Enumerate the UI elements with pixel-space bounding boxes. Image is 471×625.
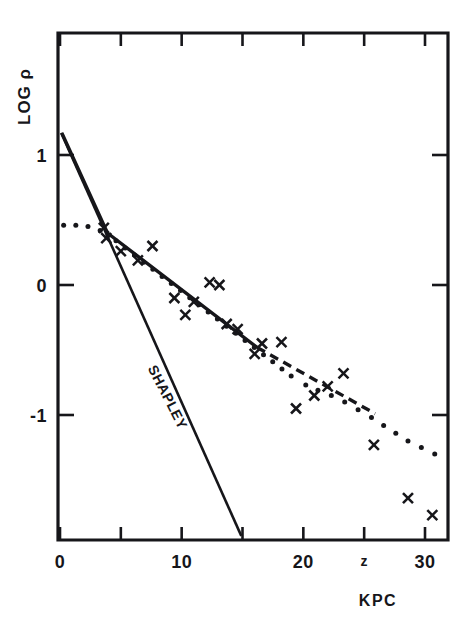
dotted-curve-dot	[206, 309, 211, 314]
data-point-marker	[291, 404, 301, 414]
y-axis-tick-labels: 10-1	[30, 146, 47, 426]
data-point-marker	[309, 391, 319, 401]
dotted-curve-dot	[85, 224, 90, 229]
dotted-curve-dot	[279, 366, 284, 371]
dotted-curve-dot	[369, 415, 374, 420]
dotted-curve-dot	[160, 274, 165, 279]
data-point-marker	[403, 493, 413, 503]
figure-root: 01020z30 10-1 LOG ρ KPC SHAPLEY	[0, 0, 471, 625]
x-tick-label-4: 20	[293, 552, 314, 572]
data-point-marker	[338, 368, 348, 378]
dotted-curve-dot	[329, 393, 334, 398]
fitted-line-solid	[62, 133, 257, 348]
data-point-marker	[369, 440, 379, 450]
dotted-curve-dot	[432, 452, 437, 457]
series-lines-group	[61, 133, 437, 536]
data-point-marker	[180, 310, 190, 320]
x-axis-ticks	[60, 527, 425, 540]
x-axis-ticks-top	[60, 33, 425, 46]
dotted-curve-dot	[419, 445, 424, 450]
dotted-curve-dot	[342, 400, 347, 405]
dotted-curve-dot	[356, 407, 361, 412]
dotted-curve-dot	[243, 338, 248, 343]
data-point-marker	[214, 280, 224, 290]
dotted-curve-dot	[178, 288, 183, 293]
data-point-marker	[427, 510, 437, 520]
data-point-marker	[257, 339, 267, 349]
data-point-marker	[276, 337, 286, 347]
data-point-marker	[169, 293, 179, 303]
data-point-marker	[250, 349, 260, 359]
y-tick-label-1: 0	[36, 276, 47, 296]
data-point-marker	[205, 277, 215, 287]
dotted-curve-dot	[215, 317, 220, 322]
dotted-curve-dot	[261, 352, 266, 357]
y-axis-ticks	[58, 155, 74, 415]
dotted-curve-dot	[405, 439, 410, 444]
dotted-curve-dot	[303, 383, 308, 388]
x-tick-label-0: 0	[55, 552, 66, 572]
dotted-curve-dot	[381, 423, 386, 428]
data-point-marker	[147, 241, 157, 251]
dotted-curve-dot	[73, 223, 78, 228]
y-axis-ticks-right	[432, 155, 448, 415]
fitted-line-dashed	[257, 347, 375, 413]
y-tick-label-2: -1	[30, 406, 47, 426]
scatter-plot-figure: 01020z30 10-1 LOG ρ KPC SHAPLEY	[0, 0, 471, 625]
dotted-curve-dot	[270, 359, 275, 364]
x-axis-tick-labels: 01020z30	[55, 552, 436, 572]
dotted-curve-dot	[169, 281, 174, 286]
x-tick-label-2: 10	[171, 552, 192, 572]
dotted-curve-dot	[289, 374, 294, 379]
plot-frame	[58, 33, 448, 540]
dotted-curve-dot	[113, 238, 118, 243]
dotted-curve-dot	[61, 223, 66, 228]
x-tick-label-6: 30	[414, 552, 435, 572]
y-tick-label-0: 1	[36, 146, 47, 166]
x-tick-label-5: z	[360, 553, 368, 569]
dotted-curve-dot	[393, 431, 398, 436]
plot-frame-box	[58, 33, 448, 540]
data-point-marker	[116, 246, 126, 256]
y-axis-title: LOG ρ	[15, 68, 34, 125]
dotted-curve-dot	[252, 345, 257, 350]
dotted-curve-dot	[150, 267, 155, 272]
x-axis-title: KPC	[359, 592, 397, 609]
